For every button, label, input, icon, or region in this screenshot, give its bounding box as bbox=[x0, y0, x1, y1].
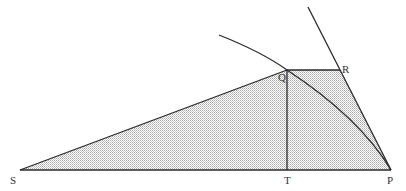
label-q: Q bbox=[278, 71, 286, 83]
label-r: R bbox=[342, 63, 350, 75]
label-t: T bbox=[284, 174, 291, 186]
shaded-region bbox=[20, 70, 391, 170]
label-s: S bbox=[10, 174, 16, 186]
geometry-diagram: S T P Q R bbox=[0, 0, 406, 191]
label-p: P bbox=[387, 174, 393, 186]
